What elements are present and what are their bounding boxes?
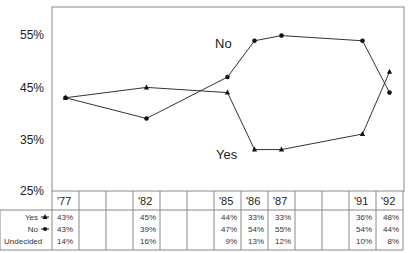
row-label: Yes <box>25 213 38 222</box>
year-header: '86 <box>246 195 260 207</box>
no-data-point <box>63 95 68 100</box>
table-cell: 36% <box>356 213 372 222</box>
no-data-point <box>387 90 392 95</box>
table-cell: 12% <box>275 237 291 246</box>
yes-series-label: Yes <box>216 147 238 162</box>
table-cell: 8% <box>387 237 399 246</box>
table-cell: 13% <box>248 237 264 246</box>
table-cell: 39% <box>140 225 156 234</box>
table-cell: 47% <box>221 225 237 234</box>
table-cell: 9% <box>225 237 237 246</box>
table-cell: 14% <box>57 237 73 246</box>
table-cell: 16% <box>140 237 156 246</box>
table-cell: 45% <box>140 213 156 222</box>
table-cell: 10% <box>356 237 372 246</box>
table-cell: 54% <box>356 225 372 234</box>
table-cell: 54% <box>248 225 264 234</box>
table-cell: 55% <box>275 225 291 234</box>
row-label: Undecided <box>4 237 42 246</box>
y-tick-45: 45% <box>20 81 44 95</box>
table-cell: 48% <box>383 213 399 222</box>
y-tick-55: 55% <box>20 28 44 42</box>
year-header: '77 <box>57 195 71 207</box>
y-tick-25: 25% <box>20 184 44 198</box>
year-header: '82 <box>138 195 152 207</box>
yes-data-point <box>360 131 365 136</box>
table-cell: 33% <box>248 213 264 222</box>
yes-data-point <box>387 69 392 74</box>
no-series-label: No <box>215 36 232 51</box>
no-data-point <box>360 38 365 43</box>
no-data-point <box>225 75 230 80</box>
yes-data-point <box>144 84 149 89</box>
year-header: '85 <box>219 195 233 207</box>
table-cell: 43% <box>57 213 73 222</box>
table-cell: 43% <box>57 225 73 234</box>
plot-frame <box>52 7 404 191</box>
year-header: '92 <box>381 195 395 207</box>
yes-line <box>66 72 390 150</box>
table-cell: 33% <box>275 213 291 222</box>
year-header: '91 <box>354 195 368 207</box>
series-lines <box>63 33 392 151</box>
line-chart: 55% 45% 35% 25% No Yes '77'82'85'86'87'9… <box>0 0 411 253</box>
data-table: '77'82'85'86'87'91'92Yes43%45%44%33%33%3… <box>0 191 403 250</box>
year-header: '87 <box>273 195 287 207</box>
y-tick-35: 35% <box>20 133 44 147</box>
table-cell: 44% <box>221 213 237 222</box>
row-label: No <box>28 225 39 234</box>
no-data-point <box>252 38 257 43</box>
no-data-point <box>144 116 149 121</box>
table-cell: 44% <box>383 225 399 234</box>
no-data-point <box>279 33 284 38</box>
